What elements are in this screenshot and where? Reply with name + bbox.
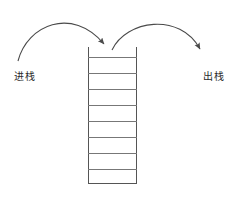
push-label: 进栈 <box>14 71 35 83</box>
stack-diagram-svg <box>0 0 241 200</box>
stack-cell-dividers <box>88 58 137 170</box>
diagram-canvas: 进栈 出栈 <box>0 0 241 200</box>
push-arrow <box>18 23 104 61</box>
pop-label: 出栈 <box>203 71 224 83</box>
stack-container <box>88 47 137 184</box>
pop-arrow <box>112 24 200 50</box>
